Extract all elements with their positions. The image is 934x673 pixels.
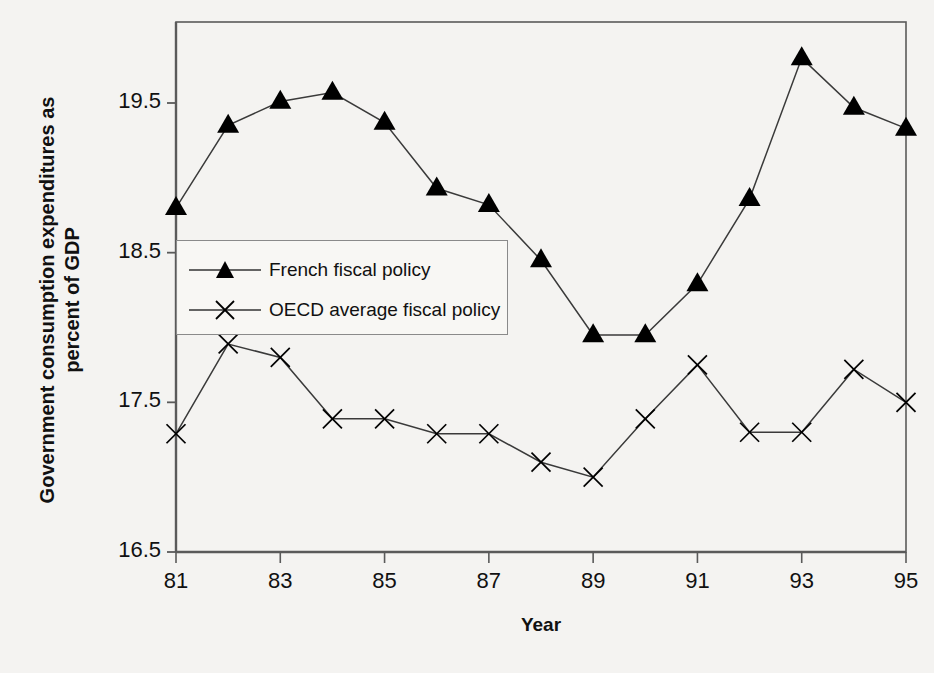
- legend-item-french: French fiscal policy: [187, 253, 431, 287]
- series-oecd: [167, 334, 916, 486]
- y-tick-label: 16.5: [81, 537, 161, 563]
- data-point-marker: [217, 114, 239, 133]
- data-point-marker: [634, 323, 656, 342]
- data-point-marker: [321, 81, 343, 100]
- x-tick-label: 93: [772, 568, 832, 594]
- data-point-marker: [895, 117, 917, 136]
- x-tick-label: 91: [667, 568, 727, 594]
- x-axis-title: Year: [176, 614, 906, 636]
- y-tick-label: 17.5: [81, 387, 161, 413]
- legend-item-oecd: OECD average fiscal policy: [187, 293, 500, 327]
- data-point-marker: [269, 90, 291, 109]
- data-point-marker: [843, 96, 865, 115]
- data-point-marker: [686, 272, 708, 291]
- legend-marker-triangle-icon: [187, 258, 263, 282]
- data-point-marker: [374, 111, 396, 130]
- x-tick-label: 85: [355, 568, 415, 594]
- legend: French fiscal policy OECD average fiscal…: [176, 240, 508, 335]
- y-tick-label: 19.5: [81, 88, 161, 114]
- legend-label-french: French fiscal policy: [269, 259, 431, 281]
- x-tick-label: 81: [146, 568, 206, 594]
- chart-figure: Government consumption expenditures as p…: [0, 0, 934, 673]
- data-point-marker: [739, 187, 761, 206]
- x-tick-label: 89: [563, 568, 623, 594]
- legend-marker-cross-icon: [187, 298, 263, 322]
- data-point-marker: [165, 196, 187, 215]
- y-tick-label: 18.5: [81, 238, 161, 264]
- legend-label-oecd: OECD average fiscal policy: [269, 299, 500, 321]
- x-tick-label: 95: [876, 568, 934, 594]
- x-tick-label: 83: [250, 568, 310, 594]
- x-tick-label: 87: [459, 568, 519, 594]
- data-point-marker: [582, 323, 604, 342]
- data-point-marker: [791, 46, 813, 65]
